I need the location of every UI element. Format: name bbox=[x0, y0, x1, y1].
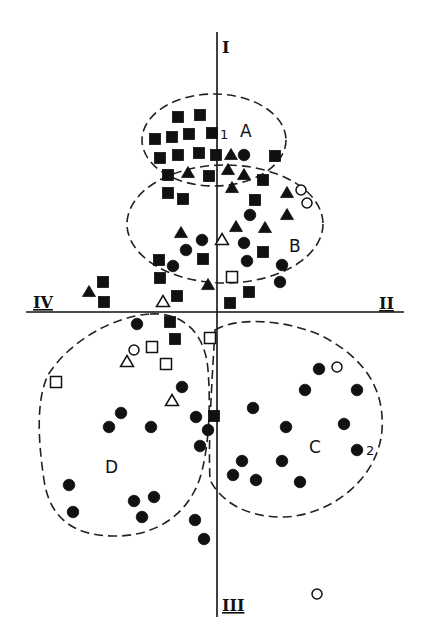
filled-square-marker bbox=[204, 171, 215, 182]
filled-circle-marker bbox=[338, 418, 350, 430]
filled-circle-marker bbox=[351, 444, 363, 456]
filled-circle-marker bbox=[67, 506, 79, 518]
filled-triangle-marker bbox=[230, 221, 243, 232]
filled-circle-marker bbox=[238, 237, 250, 249]
filled-square-marker bbox=[225, 298, 236, 309]
filled-circle-marker bbox=[128, 495, 140, 507]
filled-square-marker bbox=[98, 277, 109, 288]
filled-circle-marker bbox=[241, 255, 253, 267]
open-circle-marker bbox=[312, 589, 322, 599]
filled-circle-marker bbox=[189, 514, 201, 526]
filled-square-marker bbox=[163, 188, 174, 199]
filled-triangle-marker bbox=[225, 149, 238, 160]
open-square-marker bbox=[51, 377, 62, 388]
filled-circle-marker bbox=[103, 421, 115, 433]
cluster-label-a: A bbox=[240, 121, 252, 141]
filled-circle-marker bbox=[244, 209, 256, 221]
filled-triangle-marker bbox=[259, 222, 272, 233]
filled-triangle-marker bbox=[281, 209, 294, 220]
cluster-outline-c bbox=[209, 322, 382, 517]
annotation-2: 2 bbox=[366, 443, 374, 458]
filled-circle-marker bbox=[194, 440, 206, 452]
filled-circle-marker bbox=[136, 511, 148, 523]
filled-square-marker bbox=[195, 110, 206, 121]
open-triangle-marker bbox=[157, 296, 170, 307]
filled-circle-marker bbox=[190, 411, 202, 423]
filled-circle-marker bbox=[196, 234, 208, 246]
filled-circle-marker bbox=[198, 533, 210, 545]
filled-square-marker bbox=[150, 134, 161, 145]
open-square-marker bbox=[227, 272, 238, 283]
filled-square-marker bbox=[99, 297, 110, 308]
filled-square-marker bbox=[165, 317, 176, 328]
filled-square-marker bbox=[250, 195, 261, 206]
filled-square-marker bbox=[207, 128, 218, 139]
filled-square-marker bbox=[163, 170, 174, 181]
axis-label-top: I bbox=[222, 38, 229, 57]
axis-label-right: II bbox=[379, 294, 394, 313]
filled-circle-marker bbox=[145, 421, 157, 433]
filled-square-marker bbox=[155, 153, 166, 164]
cluster-outline-d bbox=[39, 314, 209, 536]
filled-square-marker bbox=[209, 411, 220, 422]
filled-circle-marker bbox=[202, 424, 214, 436]
filled-square-marker bbox=[194, 148, 205, 159]
filled-circle-marker bbox=[238, 149, 250, 161]
filled-circle-marker bbox=[250, 474, 262, 486]
filled-square-marker bbox=[198, 254, 209, 265]
filled-circle-marker bbox=[351, 384, 363, 396]
open-circle-marker bbox=[302, 198, 312, 208]
filled-square-marker bbox=[155, 273, 166, 284]
filled-square-marker bbox=[244, 287, 255, 298]
filled-circle-marker bbox=[276, 455, 288, 467]
filled-square-marker bbox=[211, 150, 222, 161]
data-points bbox=[51, 110, 363, 600]
open-circle-marker bbox=[129, 345, 139, 355]
filled-triangle-marker bbox=[202, 279, 215, 290]
filled-circle-marker bbox=[115, 407, 127, 419]
filled-square-marker bbox=[154, 255, 165, 266]
open-square-marker bbox=[161, 359, 172, 370]
filled-circle-marker bbox=[299, 384, 311, 396]
open-triangle-marker bbox=[166, 395, 179, 406]
filled-square-marker bbox=[270, 151, 281, 162]
filled-circle-marker bbox=[180, 244, 192, 256]
axis-label-left: IV bbox=[33, 293, 53, 312]
filled-circle-marker bbox=[131, 318, 143, 330]
filled-circle-marker bbox=[276, 259, 288, 271]
open-circle-marker bbox=[296, 185, 306, 195]
filled-square-marker bbox=[258, 247, 269, 258]
filled-triangle-marker bbox=[83, 286, 96, 297]
filled-square-marker bbox=[184, 129, 195, 140]
axis-label-bottom: III bbox=[222, 596, 244, 615]
cluster-label-d: D bbox=[105, 457, 118, 477]
filled-circle-marker bbox=[294, 476, 306, 488]
open-square-marker bbox=[205, 333, 216, 344]
filled-square-marker bbox=[172, 291, 183, 302]
filled-circle-marker bbox=[247, 402, 259, 414]
filled-circle-marker bbox=[176, 381, 188, 393]
filled-square-marker bbox=[178, 194, 189, 205]
open-square-marker bbox=[147, 342, 158, 353]
filled-circle-marker bbox=[63, 479, 75, 491]
filled-square-marker bbox=[173, 112, 184, 123]
annotation-1: 1 bbox=[220, 127, 228, 142]
open-triangle-marker bbox=[121, 356, 134, 367]
filled-circle-marker bbox=[167, 260, 179, 272]
cluster-label-b: B bbox=[289, 236, 301, 256]
filled-circle-marker bbox=[280, 421, 292, 433]
cluster-label-c: C bbox=[309, 437, 321, 457]
filled-triangle-marker bbox=[175, 227, 188, 238]
filled-square-marker bbox=[258, 175, 269, 186]
filled-triangle-marker bbox=[281, 187, 294, 198]
scatter-diagram: I II III IV A B C D 1 2 bbox=[0, 0, 424, 641]
filled-square-marker bbox=[170, 334, 181, 345]
open-circle-marker bbox=[332, 362, 342, 372]
filled-circle-marker bbox=[227, 469, 239, 481]
filled-circle-marker bbox=[236, 455, 248, 467]
filled-circle-marker bbox=[274, 276, 286, 288]
filled-square-marker bbox=[173, 150, 184, 161]
filled-circle-marker bbox=[148, 491, 160, 503]
filled-circle-marker bbox=[313, 363, 325, 375]
filled-square-marker bbox=[167, 132, 178, 143]
